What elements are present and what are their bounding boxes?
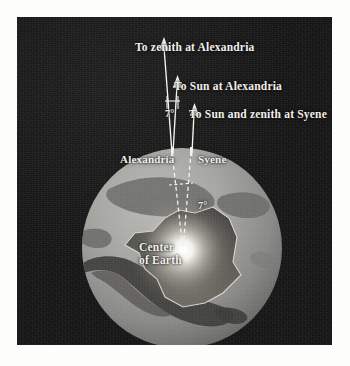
- label-to-sun-and-zenith-at-syene: To Sun and zenith at Syene: [189, 108, 327, 120]
- ray-sun-alexandria-line: [173, 85, 177, 153]
- ray-zenith-alexandria: [160, 39, 172, 153]
- label-to-sun-at-alexandria: To Sun at Alexandria: [174, 80, 282, 92]
- figure-root: To zenith at Alexandria To Sun at Alexan…: [0, 0, 350, 366]
- diagram-panel: To zenith at Alexandria To Sun at Alexan…: [17, 17, 332, 345]
- label-center-of-earth-line2: of Earth: [139, 254, 182, 267]
- label-syene: Syene: [198, 153, 227, 165]
- label-center-of-earth: Center of Earth: [139, 241, 182, 267]
- label-to-zenith-at-alexandria: To zenith at Alexandria: [135, 41, 255, 53]
- label-angle-outer-7-degrees: 7°: [165, 108, 174, 119]
- label-center-of-earth-line1: Center: [139, 241, 182, 254]
- ray-lines: [160, 39, 198, 153]
- label-angle-inner-7-degrees: 7°: [198, 200, 207, 211]
- city-marker-syene: [190, 147, 192, 156]
- earth-diagram-svg: [17, 17, 332, 345]
- ray-zenith-alexandria-line: [164, 47, 172, 153]
- label-alexandria: Alexandria: [120, 153, 175, 165]
